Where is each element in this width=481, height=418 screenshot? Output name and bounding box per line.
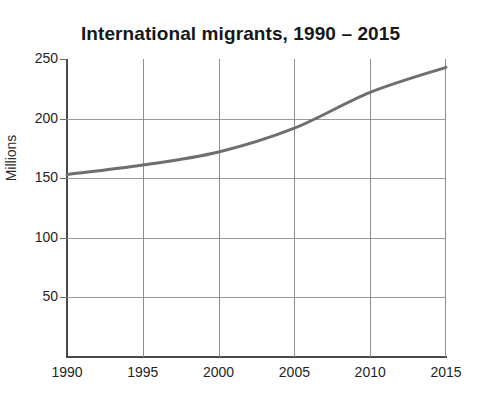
y-axis-tick-label: 50 bbox=[10, 288, 58, 304]
y-axis-tick-label: 250 bbox=[10, 50, 58, 66]
x-axis-tick-label: 2015 bbox=[416, 364, 476, 380]
y-axis-tick-label: 100 bbox=[10, 229, 58, 245]
x-axis-tick-label: 1990 bbox=[37, 364, 97, 380]
y-axis-tick-mark bbox=[60, 178, 67, 179]
chart-screenshot: International migrants, 1990 – 2015 Mill… bbox=[0, 0, 481, 418]
x-axis-tick-label: 1995 bbox=[113, 364, 173, 380]
y-axis-tick-label-group: 25020015010050 bbox=[8, 0, 58, 418]
page-title: International migrants, 1990 – 2015 bbox=[0, 23, 481, 45]
series-path bbox=[67, 67, 446, 174]
x-axis-tick-label: 2010 bbox=[340, 364, 400, 380]
y-axis-tick-mark bbox=[60, 238, 67, 239]
y-axis-tick-mark bbox=[60, 59, 67, 60]
y-axis-tick-label: 200 bbox=[10, 110, 58, 126]
plot-area bbox=[67, 59, 446, 357]
y-axis-tick-mark bbox=[60, 297, 67, 298]
x-axis-tick-label: 2005 bbox=[264, 364, 324, 380]
x-axis-tick-label: 2000 bbox=[189, 364, 249, 380]
y-axis-tick-label: 150 bbox=[10, 169, 58, 185]
series-line-international-migrants bbox=[67, 59, 446, 357]
y-axis-tick-mark bbox=[60, 119, 67, 120]
